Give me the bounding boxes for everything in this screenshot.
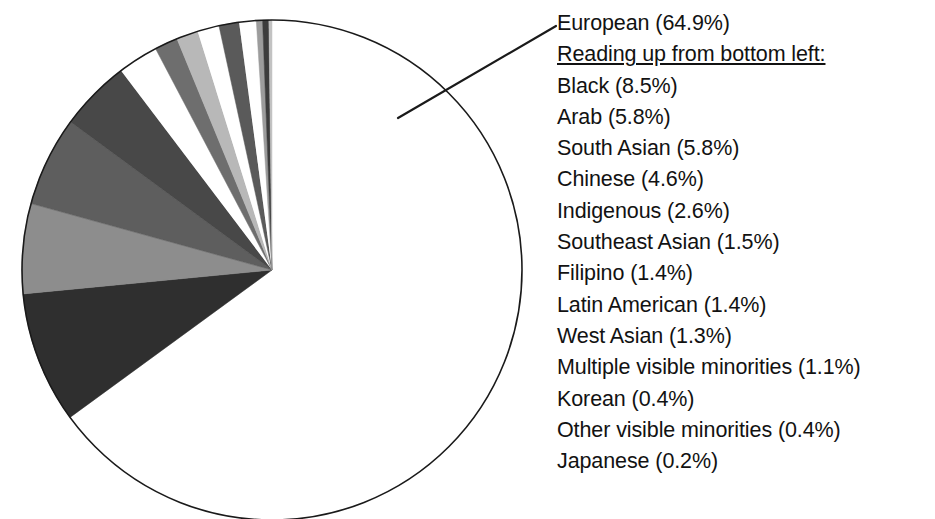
legend-item: Multiple visible minorities (1.1%) [557,352,935,383]
legend-item: Latin American (1.4%) [557,290,935,321]
legend: European (64.9%)Reading up from bottom l… [557,8,935,477]
legend-item: South Asian (5.8%) [557,133,935,164]
legend-item: Japanese (0.2%) [557,446,935,477]
legend-item: Black (8.5%) [557,71,935,102]
pie-chart-svg [0,0,570,519]
legend-item: European (64.9%) [557,8,935,39]
pie-slice-group [22,20,522,519]
legend-item: West Asian (1.3%) [557,321,935,352]
legend-item: Southeast Asian (1.5%) [557,227,935,258]
pie-chart-figure: European (64.9%)Reading up from bottom l… [0,0,935,519]
legend-item: Other visible minorities (0.4%) [557,415,935,446]
pie-chart-area [0,0,570,519]
legend-item: Indigenous (2.6%) [557,196,935,227]
legend-item: Korean (0.4%) [557,384,935,415]
legend-item: Chinese (4.6%) [557,164,935,195]
legend-item: Arab (5.8%) [557,102,935,133]
legend-item: Filipino (1.4%) [557,258,935,289]
legend-heading: Reading up from bottom left: [557,39,935,70]
